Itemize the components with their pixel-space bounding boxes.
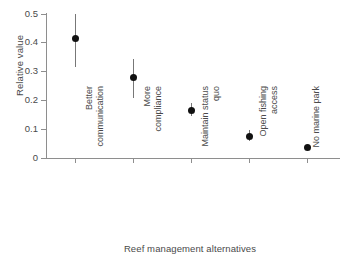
y-tick-0 — [41, 158, 46, 159]
x-category-label-line1: Open fishing — [258, 86, 269, 166]
x-category-label-line1: Better — [84, 86, 95, 166]
y-tick-0.5 — [41, 14, 46, 15]
y-tick-label-0.2: 0.2 — [12, 95, 38, 105]
x-category-label-line2: communication — [95, 86, 106, 166]
x-tick-3 — [249, 158, 250, 163]
data-point-0 — [72, 35, 79, 42]
x-tick-2 — [191, 158, 192, 163]
y-tick-0.2 — [41, 100, 46, 101]
x-category-label-4: No marine park — [311, 86, 322, 166]
y-axis-line — [46, 13, 47, 159]
y-tick-label-0.3: 0.3 — [12, 66, 38, 76]
data-point-3 — [246, 133, 253, 140]
x-category-label-1: Morecompliance — [142, 86, 164, 166]
plot-area: 0.50.40.30.20.10 BettercommunicationMore… — [0, 0, 347, 265]
y-tick-0.1 — [41, 129, 46, 130]
data-point-2 — [188, 107, 195, 114]
data-point-1 — [130, 74, 137, 81]
y-tick-0.4 — [41, 42, 46, 43]
x-category-label-line2: quo — [211, 86, 222, 166]
y-tick-label-0.4: 0.4 — [12, 37, 38, 47]
x-category-label-line1: Maintain status — [200, 86, 211, 166]
y-tick-label-0.5: 0.5 — [12, 9, 38, 19]
y-tick-label-0: 0 — [12, 153, 38, 163]
x-category-label-line1: More — [142, 86, 153, 166]
x-tick-1 — [133, 158, 134, 163]
x-category-label-line2: access — [269, 86, 280, 166]
x-category-label-0: Bettercommunication — [84, 86, 106, 166]
x-category-label-3: Open fishingaccess — [258, 86, 280, 166]
x-tick-0 — [75, 158, 76, 163]
x-category-label-line1: No marine park — [311, 86, 322, 166]
y-tick-label-0.1: 0.1 — [12, 124, 38, 134]
chart-figure: Relative value Reef management alternati… — [0, 0, 347, 265]
data-point-4 — [304, 144, 311, 151]
x-category-label-line2: compliance — [153, 86, 164, 166]
x-tick-4 — [307, 158, 308, 163]
y-tick-0.3 — [41, 71, 46, 72]
x-category-label-2: Maintain statusquo — [200, 86, 222, 166]
